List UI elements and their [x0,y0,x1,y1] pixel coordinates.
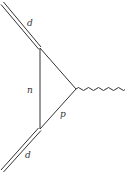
label-p: p [60,109,66,119]
upper-internal-line [40,48,76,89]
proton-line [40,89,76,129]
label-n: n [27,85,33,95]
label-top-d: d [27,18,33,28]
label-bottom-d: d [25,150,31,160]
deuteron-out-double-line [1,128,41,172]
feynman-diagram: d n p d [0,0,125,172]
deuteron-in-double-line [1,2,41,50]
photon-wavy-line [76,88,125,91]
